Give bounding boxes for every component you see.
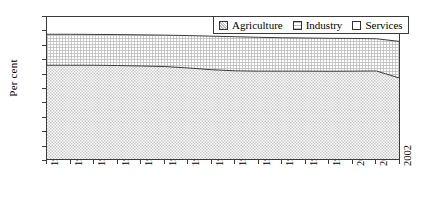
legend-item-industry: Industry bbox=[293, 19, 343, 31]
legend-label-industry: Industry bbox=[306, 19, 343, 31]
legend-label-agriculture: Agriculture bbox=[232, 19, 283, 31]
x-tick-mark bbox=[70, 160, 71, 164]
legend-label-services: Services bbox=[365, 19, 402, 31]
x-tick-mark bbox=[211, 160, 212, 164]
stacked-area-series bbox=[47, 17, 400, 160]
chart-figure: Per cent 0102030405060708090100 19871988… bbox=[0, 0, 426, 204]
x-tick-mark bbox=[399, 160, 400, 164]
x-tick-mark bbox=[305, 160, 306, 164]
x-tick-mark bbox=[46, 160, 47, 164]
legend-item-agriculture: Agriculture bbox=[219, 19, 283, 31]
x-tick-mark bbox=[164, 160, 165, 164]
x-tick-mark bbox=[234, 160, 235, 164]
services-swatch-icon bbox=[352, 21, 361, 30]
x-tick-mark bbox=[187, 160, 188, 164]
plot-area bbox=[46, 16, 400, 160]
x-tick-mark bbox=[328, 160, 329, 164]
x-tick-label: 2002 bbox=[403, 145, 414, 166]
industry-swatch-icon bbox=[293, 21, 302, 30]
x-tick-mark bbox=[117, 160, 118, 164]
y-axis-title: Per cent bbox=[7, 43, 19, 113]
x-tick-mark bbox=[281, 160, 282, 164]
x-tick-mark bbox=[93, 160, 94, 164]
x-tick-mark bbox=[352, 160, 353, 164]
agriculture-swatch-icon bbox=[219, 21, 228, 30]
chart-legend: Agriculture Industry Services bbox=[213, 16, 409, 34]
legend-item-services: Services bbox=[352, 19, 402, 31]
x-tick-mark bbox=[140, 160, 141, 164]
x-tick-mark bbox=[258, 160, 259, 164]
x-tick-mark bbox=[375, 160, 376, 164]
agriculture-band bbox=[47, 65, 400, 160]
